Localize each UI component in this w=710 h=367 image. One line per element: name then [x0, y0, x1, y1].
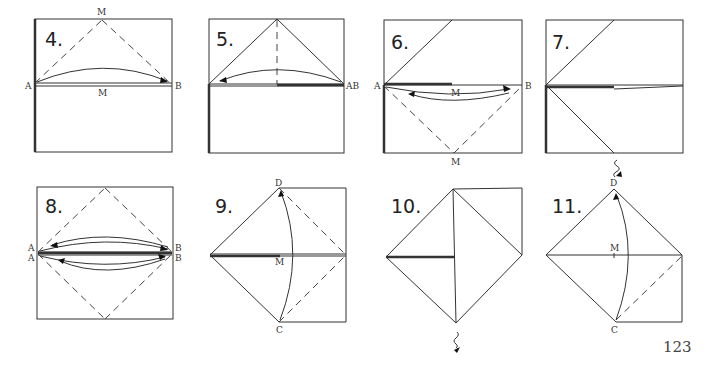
label-c: C — [276, 325, 283, 335]
step-number: 7. — [552, 31, 570, 53]
turn-over-icon — [454, 332, 458, 348]
step-number: 5. — [216, 28, 234, 50]
label-c: C — [611, 325, 618, 335]
label-a-top: A — [27, 243, 35, 253]
label-d: D — [275, 178, 282, 188]
label-b-top: B — [175, 243, 182, 253]
label-b: B — [525, 81, 532, 91]
label-a-bottom: A — [27, 253, 35, 263]
label-a: A — [24, 81, 32, 91]
step-4-diagram: 4. M A B M — [24, 7, 182, 152]
step-number: 8. — [45, 195, 63, 217]
label-m-top: M — [97, 7, 106, 17]
label-m: M — [275, 257, 284, 267]
label-m-bottom: M — [451, 157, 460, 167]
step-number: 4. — [45, 28, 63, 50]
label-m-mid: M — [451, 88, 460, 98]
step-6-diagram: 6. A B M M — [373, 20, 532, 167]
step-5-diagram: 5. AB — [209, 19, 359, 153]
label-a: A — [373, 81, 381, 91]
step-8-diagram: 8. A A B B — [27, 187, 182, 319]
origami-diagram-page: 4. M A B M 5. AB 6. A B M M — [0, 0, 710, 367]
step-number: 10. — [391, 195, 421, 217]
page-number: 123 — [663, 338, 692, 356]
label-m-mid: M — [98, 88, 107, 98]
label-b-bottom: B — [175, 253, 182, 263]
step-9-diagram: 9. D M C — [210, 178, 346, 335]
label-ab: AB — [345, 81, 359, 91]
step-number: 11. — [552, 195, 582, 217]
step-11-diagram: 11. D M C — [546, 178, 682, 335]
step-number: 6. — [391, 31, 409, 53]
label-m: M — [610, 243, 619, 253]
label-b: B — [175, 81, 182, 91]
step-10-diagram: 10. — [386, 188, 522, 353]
label-d: D — [610, 178, 617, 188]
step-number: 9. — [215, 195, 233, 217]
